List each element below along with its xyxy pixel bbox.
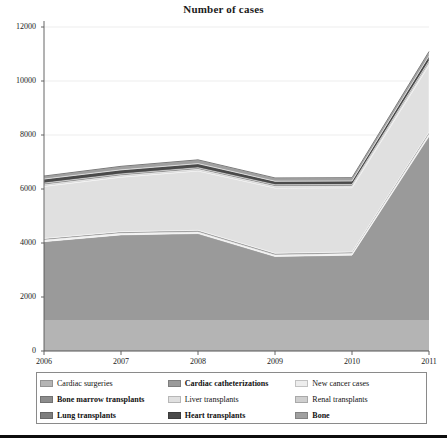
legend-item-label: Bone marrow transplants (57, 395, 144, 404)
legend-swatch-icon (295, 396, 308, 403)
legend-item[interactable]: Renal transplants (295, 391, 423, 407)
legend-swatch-icon (295, 412, 308, 419)
legend-item[interactable]: Lung transplants (40, 407, 168, 423)
x-tick-label: 2007 (101, 358, 141, 366)
x-tick-label: 2009 (255, 358, 295, 366)
legend-item-label: Lung transplants (57, 411, 116, 420)
chart-page: Number of cases 020004000600080001000012… (0, 0, 447, 447)
legend-swatch-icon (295, 380, 308, 387)
y-tick-label: 0 (0, 347, 36, 355)
legend-swatch-icon (40, 396, 53, 403)
legend-item-label: Heart transplants (185, 411, 246, 420)
y-tick-label: 6000 (0, 185, 36, 193)
legend-swatch-icon (40, 380, 53, 387)
y-tick-label: 10000 (0, 77, 36, 85)
legend-item[interactable]: Cardiac catheterizations (168, 375, 296, 391)
legend-item[interactable]: Cardiac surgeries (40, 375, 168, 391)
legend-item-label: Liver transplants (185, 395, 239, 404)
legend-item-label: Cardiac catheterizations (185, 379, 269, 388)
legend-item-label: Cardiac surgeries (57, 379, 113, 388)
x-tick-label: 2008 (178, 358, 218, 366)
legend-item[interactable]: Bone marrow transplants (40, 391, 168, 407)
stacked-area-chart (0, 0, 447, 360)
legend-item[interactable]: Liver transplants (168, 391, 296, 407)
x-tick-label: 2011 (409, 358, 447, 366)
y-tick-label: 2000 (0, 293, 36, 301)
legend-item[interactable]: Heart transplants (168, 407, 296, 423)
legend-swatch-icon (168, 396, 181, 403)
chart-legend: Cardiac surgeriesCardiac catheterization… (36, 372, 427, 424)
legend-item-label: Bone (312, 411, 329, 420)
legend-item-label: Renal transplants (312, 395, 367, 404)
legend-swatch-icon (168, 412, 181, 419)
legend-swatch-icon (40, 412, 53, 419)
plot-area (0, 0, 447, 360)
legend-item[interactable]: New cancer cases (295, 375, 423, 391)
legend-swatch-icon (168, 380, 181, 387)
area-series (44, 320, 429, 351)
footer-rule (0, 435, 447, 438)
y-tick-label: 12000 (0, 23, 36, 31)
legend-item[interactable]: Bone (295, 407, 423, 423)
y-tick-label: 4000 (0, 239, 36, 247)
x-tick-label: 2010 (332, 358, 372, 366)
x-tick-label: 2006 (24, 358, 64, 366)
y-tick-label: 8000 (0, 131, 36, 139)
legend-item-label: New cancer cases (312, 379, 369, 388)
